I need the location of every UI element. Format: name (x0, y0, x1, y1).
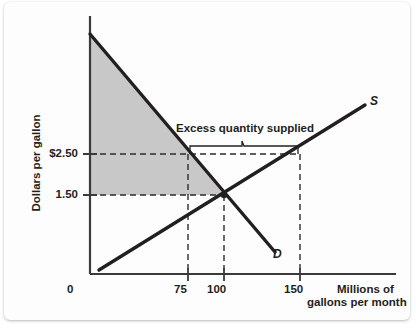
y-tick-label-150: 1.50 (22, 188, 78, 200)
excess-quantity-brace (190, 141, 298, 154)
x-axis-title-line2: gallons per month (307, 296, 407, 309)
demand-curve-label: D (273, 247, 282, 261)
equilibrium-point (221, 192, 227, 198)
y-axis-title: Dollars per gallon (30, 103, 42, 223)
x-tick-label-75: 75 (174, 283, 187, 295)
figure-card: Dollars per gallon $2.50 1.50 0 75 100 1… (4, 2, 410, 320)
excess-quantity-supplied-label: Excess quantity supplied (176, 122, 314, 134)
x-tick-label-150: 150 (284, 283, 303, 295)
supply-curve-label: S (370, 94, 378, 108)
x-tick-label-0: 0 (67, 283, 73, 295)
x-tick-label-100: 100 (207, 283, 226, 295)
y-tick-label-250: $2.50 (22, 147, 78, 159)
x-axis-title-line1: Millions of (337, 283, 394, 296)
supply-demand-chart (4, 2, 410, 320)
